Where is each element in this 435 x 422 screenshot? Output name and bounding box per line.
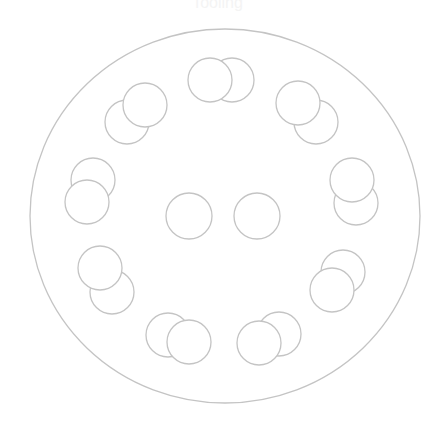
seat-circle-right-front [330,158,374,202]
seat-circle-lower-left-front [78,246,122,290]
center-circle-1 [166,193,212,239]
seat-circle-lower-right-front [310,268,354,312]
seat-circle-top-right-front [276,81,320,125]
seat-circle-bottom-left-front [167,320,211,364]
table-seating-diagram [0,0,435,422]
seat-circle-top-front [188,58,232,102]
seat-circle-bottom-right-front [237,321,281,365]
seat-circle-left-front [65,180,109,224]
center-circle-2 [234,193,280,239]
seat-circle-top-left-front [123,83,167,127]
